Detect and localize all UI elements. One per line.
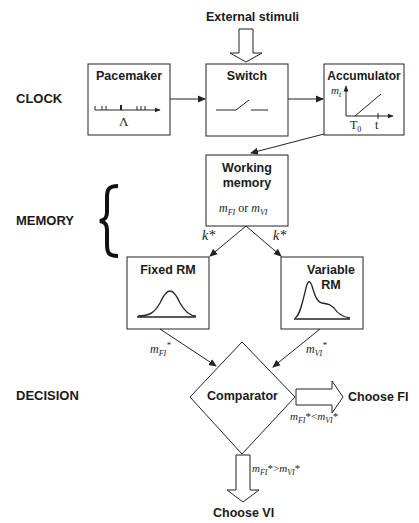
m-fi-star-label: mFI* [150,340,171,358]
external-stimuli-arrow [230,29,262,62]
accumulator-title: Accumulator [324,69,404,84]
switch-title: Switch [206,69,288,84]
comparator-title: Comparator [190,389,295,404]
choose-fi-arrow [296,381,343,413]
stage-label-memory: MEMORY [16,213,74,228]
memory-brace [100,186,118,256]
accumulator-t0-label: T0 [350,118,361,134]
accumulator-y-axis-label: mt [331,84,341,99]
working-memory-content: mFI or mVI [219,201,267,217]
fixed-rm-title: Fixed RM [127,263,209,278]
external-stimuli-label: External stimuli [206,10,299,24]
variable-rm-title: VariableRM [290,263,372,293]
condition-choose-fi: mFI*<mVI* [290,410,338,425]
k-star-left-label: k* [202,228,215,244]
condition-choose-vi: mFI*>mVI* [252,462,300,477]
accumulator-t-label: t [375,118,378,133]
m-vi-star-label: mVI* [306,340,327,358]
k-star-right-label: k* [273,228,286,244]
pacemaker-title: Pacemaker [88,69,170,84]
edge-wm-fixed-rm [210,226,246,256]
stage-label-clock: CLOCK [16,91,62,106]
working-memory-title: Workingmemory [206,161,288,191]
edge-accumulator-working-memory [251,134,324,153]
choose-fi-label: Choose FI [348,390,408,404]
choose-vi-label: Choose VI [213,506,274,520]
stage-label-decision: DECISION [16,388,79,403]
pacemaker-rate-symbol: Λ [119,114,128,130]
